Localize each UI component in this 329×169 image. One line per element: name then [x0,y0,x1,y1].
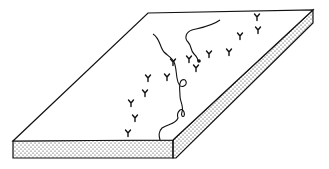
slab-top-face [13,10,313,141]
slab-diagram [0,0,329,169]
diagram-figure [0,0,329,169]
strand-end-dot [197,59,201,63]
slab-front-face [13,140,173,158]
substrate-slab [13,10,313,158]
